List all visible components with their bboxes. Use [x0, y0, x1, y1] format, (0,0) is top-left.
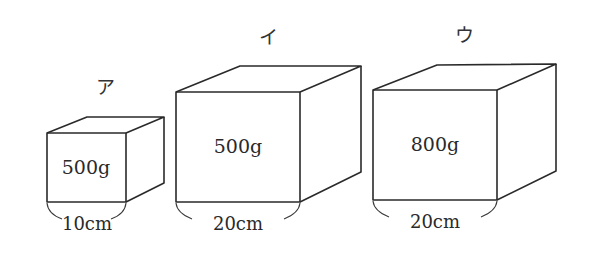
cube-u-side-face [497, 64, 556, 200]
cube-a-edge-length: 10cm [62, 213, 112, 234]
cube-i-label: イ [259, 26, 278, 48]
cube-u-edge-length: 20cm [410, 211, 460, 232]
cube-i-side-face [300, 66, 361, 202]
cube-a-label: ア [96, 76, 115, 98]
cube-i: イ 500g 20cm [176, 26, 361, 234]
cube-u-top-face [373, 64, 556, 90]
cube-i-weight: 500g [214, 135, 262, 157]
cube-a-top-face [47, 117, 164, 133]
cube-i-top-face [176, 66, 361, 92]
cubes-diagram: ア 500g 10cm イ 500g 20cm ウ 800g 20cm [0, 0, 598, 254]
cube-u-label: ウ [455, 24, 474, 46]
cube-u-weight: 800g [411, 133, 459, 155]
cube-a: ア 500g 10cm [47, 76, 164, 234]
cube-a-weight: 500g [62, 156, 110, 178]
cube-u: ウ 800g 20cm [373, 24, 556, 232]
cube-i-edge-length: 20cm [213, 213, 263, 234]
